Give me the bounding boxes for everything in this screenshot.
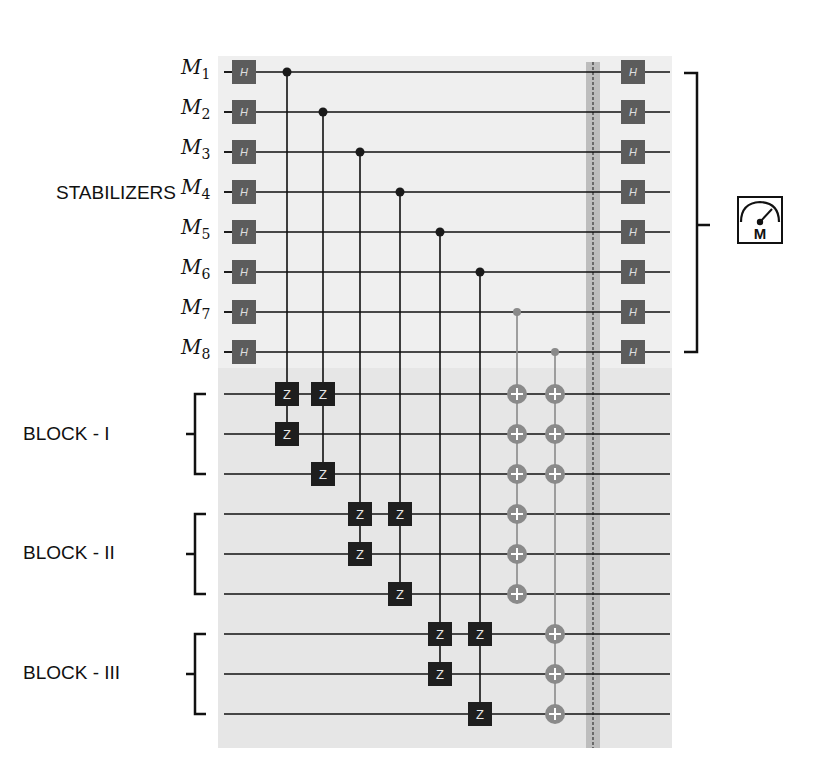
hadamard-label: H xyxy=(240,266,248,278)
control-dot xyxy=(356,148,365,157)
z-gate-label: Z xyxy=(436,627,444,642)
hadamard-label: H xyxy=(629,106,637,118)
hadamard-label: H xyxy=(240,226,248,238)
control-dot xyxy=(436,228,445,237)
block-2-label: BLOCK - II xyxy=(23,542,115,564)
control-dot xyxy=(513,308,521,316)
block-bracket xyxy=(186,634,206,714)
z-gate-label: Z xyxy=(396,587,404,602)
hadamard-label: H xyxy=(240,186,248,198)
z-gate-label: Z xyxy=(396,507,404,522)
block-bracket xyxy=(186,514,206,594)
hadamard-label: H xyxy=(629,346,637,358)
qubit-label-m4: M4 xyxy=(181,175,210,202)
z-gate-label: Z xyxy=(356,547,364,562)
qubit-label-m3: M3 xyxy=(181,135,210,162)
hadamard-label: H xyxy=(629,186,637,198)
block-bracket xyxy=(186,394,206,474)
hadamard-label: H xyxy=(240,66,248,78)
stabilizer-region xyxy=(218,56,672,368)
control-dot xyxy=(283,68,292,77)
hadamard-label: H xyxy=(629,266,637,278)
control-dot xyxy=(319,108,328,117)
z-gate-label: Z xyxy=(319,467,327,482)
control-dot xyxy=(396,188,405,197)
circuit-diagram: ZZZZZZZZZZZZHHHHHHHHHHHHHHHHM xyxy=(0,0,828,781)
hadamard-label: H xyxy=(629,306,637,318)
control-dot xyxy=(476,268,485,277)
hadamard-label: H xyxy=(240,346,248,358)
measurement-label: M xyxy=(754,225,767,242)
hadamard-label: H xyxy=(240,106,248,118)
block-1-label: BLOCK - I xyxy=(23,423,110,445)
hadamard-label: H xyxy=(240,306,248,318)
qubit-label-m7: M7 xyxy=(181,295,210,322)
hadamard-label: H xyxy=(629,66,637,78)
qubit-label-m1: M1 xyxy=(181,55,210,82)
hadamard-label: H xyxy=(240,146,248,158)
qubit-label-m6: M6 xyxy=(181,255,210,282)
control-dot xyxy=(551,348,559,356)
z-gate-label: Z xyxy=(283,387,291,402)
block-3-label: BLOCK - III xyxy=(23,662,120,684)
z-gate-label: Z xyxy=(356,507,364,522)
stabilizer-bracket xyxy=(684,73,710,352)
qubit-label-m5: M5 xyxy=(181,215,210,242)
hadamard-label: H xyxy=(629,146,637,158)
stabilizers-label: STABILIZERS xyxy=(56,182,176,204)
z-gate-label: Z xyxy=(476,707,484,722)
z-gate-label: Z xyxy=(319,387,327,402)
qubit-label-m2: M2 xyxy=(181,95,210,122)
z-gate-label: Z xyxy=(476,627,484,642)
qubit-label-m8: M8 xyxy=(181,335,210,362)
hadamard-label: H xyxy=(629,226,637,238)
z-gate-label: Z xyxy=(283,427,291,442)
z-gate-label: Z xyxy=(436,667,444,682)
